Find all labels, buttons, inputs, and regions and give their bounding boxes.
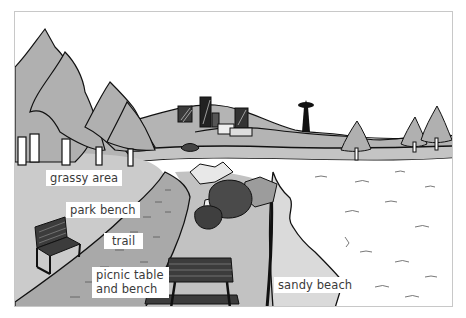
label-grassy-area: grassy area <box>46 170 122 186</box>
park-scene-illustration <box>15 12 453 307</box>
label-picnic-table-and-bench: picnic table and bench <box>92 267 169 298</box>
illustration-frame: grassy area park bench trail picnic tabl… <box>14 11 453 307</box>
label-trail: trail <box>104 233 143 249</box>
label-picnic-table-line1: picnic table <box>96 268 164 282</box>
label-picnic-table-line2: and bench <box>96 282 164 296</box>
label-park-bench: park bench <box>66 202 140 218</box>
label-sandy-beach: sandy beach <box>274 277 356 293</box>
